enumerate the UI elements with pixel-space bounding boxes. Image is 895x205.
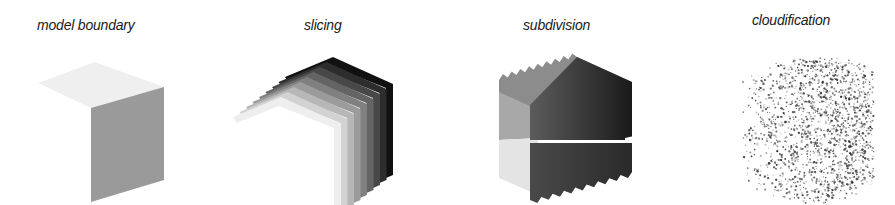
diagram-canvas — [0, 0, 895, 205]
slicing-shape — [233, 57, 393, 205]
subdivision-shape — [499, 54, 634, 203]
model-boundary-shape — [38, 62, 164, 202]
front-face-bottom — [530, 143, 632, 203]
cloudification-shape — [742, 58, 875, 204]
